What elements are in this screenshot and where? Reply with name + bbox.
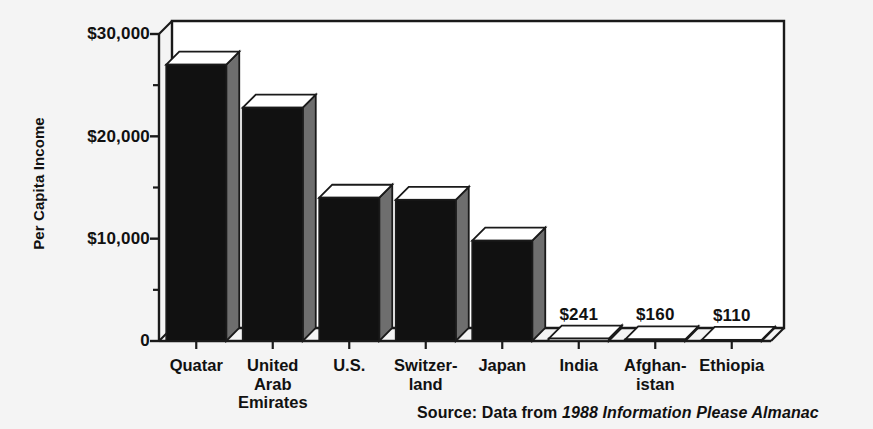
category-label-layer: QuatarUnited Arab EmiratesU.S.Switzer- l… (0, 0, 873, 429)
x-category-label: Ethiopia (676, 356, 788, 375)
source-prefix: Source: Data from (417, 404, 562, 421)
chart-root: Per Capita Income $30,000 $20,000 $10,00… (0, 0, 873, 429)
source-note: Source: Data from 1988 Information Pleas… (417, 404, 819, 422)
source-title: 1988 Information Please Almanac (562, 404, 819, 421)
